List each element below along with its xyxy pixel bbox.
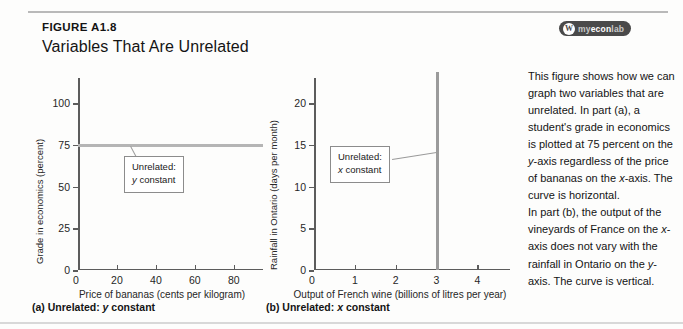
chart-b-x-tick [396,265,398,270]
chart-b-x-axis [314,269,510,271]
chart-b-x-tick-label: 0 [309,274,315,286]
chart-a-x-tick [234,265,236,270]
chart-a-y-tick-label: 25 [58,222,70,234]
chart-panel-b: Rainfall in Ontario (days per month) Out… [258,72,520,287]
chart-a-x-tick [78,265,80,270]
chart-b-x-tick-label: 3 [434,274,440,286]
chart-b-callout: Unrelated: x constant [330,146,390,183]
chart-a-y-tick-label: 100 [52,97,70,109]
chart-a-plot-area: 0 25 50 75 100 0 20 40 60 80 Unrelated: … [78,78,263,270]
chart-a-x-tick-label: 0 [73,274,79,286]
chart-a-x-axis-title: Price of bananas (cents per kilogram) [50,289,274,300]
myeconlab-label: myeconlab [578,24,624,34]
chart-b-y-tick [309,103,314,105]
myeconlab-logo-icon: W [563,23,575,35]
chart-b-y-tick-label: 0 [300,264,306,276]
chart-b-y-axis-title: Rainfall in Ontario (days per month) [268,120,279,270]
chart-b-y-tick-label: 10 [294,181,306,193]
chart-a-y-axis-title: Grade in economics (percent) [34,139,45,264]
chart-a-x-tick [156,265,158,270]
chart-b-callout-leader [392,152,437,160]
caption-b-prefix: (b) Unrelated: [266,301,337,313]
chart-b-x-tick [314,265,316,270]
chart-b-callout-line1: Unrelated: [338,151,382,164]
chart-a-x-tick-label: 40 [150,274,162,286]
figure-panel: FIGURE A1.8 Variables That Are Unrelated… [0,0,683,329]
chart-b-y-tick [309,145,314,147]
chart-a-x-tick-label: 60 [189,274,201,286]
caption-a: (a) Unrelated: y constant [32,301,155,313]
bottom-divider [0,322,683,324]
chart-b-y-tick [309,270,314,272]
chart-b-x-tick-label: 2 [393,274,399,286]
chart-b-x-tick-label: 4 [474,274,480,286]
caption-a-prefix: (a) Unrelated: [32,301,103,313]
caption-b: (b) Unrelated: x constant [266,301,390,313]
chart-a-x-tick [117,265,119,270]
chart-a-x-tick-label: 20 [111,274,123,286]
chart-a-y-tick-label: 50 [58,181,70,193]
chart-a-x-tick [195,265,197,270]
top-divider [28,11,668,13]
badge-text-econ: econ [591,24,612,34]
description-paragraph-2: In part (b), the output of the vineyards… [528,204,676,289]
chart-a-x-tick-label: 80 [228,274,240,286]
chart-b-y-axis [314,78,316,270]
badge-text-my: my [578,24,591,34]
chart-b-y-tick [309,187,314,189]
caption-a-suffix: constant [108,301,155,313]
chart-a-y-tick [73,187,78,189]
chart-b-plot-area: 0 5 10 15 20 0 1 2 3 4 Unrelated: x cons… [314,78,510,270]
chart-a-y-tick [73,103,78,105]
chart-panel-a: Grade in economics (percent) Price of ba… [24,72,274,287]
figure-description: This figure shows how we can graph two v… [528,68,676,290]
chart-a-y-tick-label: 75 [58,139,70,151]
description-paragraph-1: This figure shows how we can graph two v… [528,68,676,204]
figure-number: FIGURE A1.8 [42,21,117,33]
figure-title: Variables That Are Unrelated [42,38,249,56]
caption-b-suffix: constant [343,301,390,313]
chart-b-y-tick-label: 20 [294,97,306,109]
chart-b-y-tick [309,228,314,230]
chart-b-x-tick-label: 1 [352,274,358,286]
para2-part1: In part (b), the output of the vineyards… [528,206,661,235]
chart-a-y-tick [73,228,78,230]
chart-a-callout-line2: y constant [132,174,176,187]
chart-b-x-tick [355,265,357,270]
chart-a-y-tick-label: 0 [64,264,70,276]
badge-text-lab: lab [611,24,624,34]
chart-b-x-axis-title: Output of French wine (billions of litre… [280,289,520,300]
chart-a-callout-line1: Unrelated: [132,161,176,174]
chart-a-y-tick [73,270,78,272]
para1-part1: This figure shows how we can graph two v… [528,70,675,150]
chart-a-callout: Unrelated: y constant [124,156,184,193]
myeconlab-badge[interactable]: W myeconlab [559,21,631,36]
chart-a-curve-horizontal [78,144,263,147]
chart-b-callout-line2: x constant [338,164,382,177]
chart-a-y-axis [78,78,80,270]
chart-b-y-tick-label: 5 [300,222,306,234]
chart-b-curve-vertical [436,72,439,270]
chart-b-x-tick [477,265,479,270]
chart-b-y-tick-label: 15 [294,139,306,151]
